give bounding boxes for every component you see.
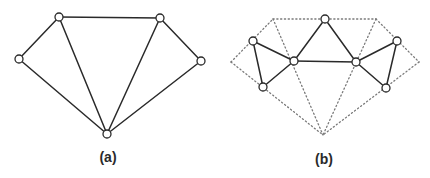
graph-node-top-right [156,14,164,22]
graph-node-top-left [55,13,63,21]
graph-edge [253,41,294,61]
panel-a-graph [15,13,205,138]
graph-node-left-top [249,37,257,45]
graph-edge [294,61,356,62]
graph-node-right [197,57,205,65]
dotted-edge [323,62,419,135]
graph-edge [294,19,325,61]
dotted-edge [273,19,323,135]
graph-edge [59,17,160,18]
panel-b-label: (b) [315,151,333,167]
graph-node-right-top [393,37,401,45]
graph-node-right-bottom [382,84,390,92]
graph-node-inner-left [290,57,298,65]
graph-node-left-bottom [259,83,267,91]
graph-edge [263,61,294,87]
panel-b-graph [231,15,419,135]
graph-edge [325,19,356,62]
graph-edge [356,41,397,62]
graph-edge [160,18,201,61]
dotted-edge [323,19,376,135]
graph-node-top [321,15,329,23]
graph-edge [19,17,59,59]
graph-edge [356,62,386,88]
dotted-edge [231,62,323,135]
graph-edge [59,17,107,134]
graph-edge [107,61,201,134]
graph-node-bottom [103,130,111,138]
graph-node-left [15,55,23,63]
graph-node-inner-right [352,58,360,66]
graph-edge [386,41,397,88]
graph-edge [107,18,160,134]
panel-a-label: (a) [99,149,116,165]
graph-figure [0,0,430,178]
graph-edge [19,59,107,134]
graph-edge [253,41,263,87]
